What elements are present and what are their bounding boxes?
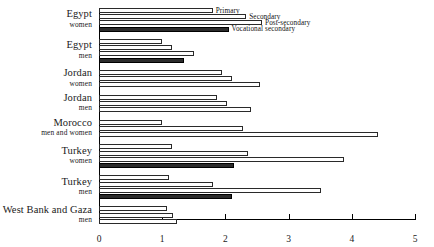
bar [99,144,172,149]
bar [99,163,234,168]
legend-label-vocational-secondary: Vocational secondary [232,25,296,33]
category-country: West Bank and Gaza [0,205,92,216]
bar [99,126,243,131]
bar [99,182,213,187]
category-country: Morocco [0,118,92,129]
category-group: women [0,21,92,29]
x-tick-label-4: 4 [349,234,354,244]
bar [99,8,213,13]
category-label: Turkeywomen [0,146,92,165]
x-tick-4 [352,214,353,220]
category-label: Turkeymen [0,177,92,196]
x-tick-label-1: 1 [160,234,165,244]
bar [99,219,177,224]
bar [99,175,169,180]
bar [99,27,229,32]
x-tick-3 [289,214,290,220]
category-group: men [0,216,92,224]
x-tick-label-3: 3 [286,234,291,244]
bar [99,213,173,218]
bar [99,151,248,156]
category-country: Turkey [0,146,92,157]
x-tick-5 [415,214,416,220]
bar [99,82,260,87]
category-axis-labels: EgyptwomenEgyptmenJordanwomenJordanmenMo… [0,0,96,247]
x-tick-2 [225,214,226,220]
bar [99,70,222,75]
category-group: women [0,157,92,165]
category-label: Jordanwomen [0,68,92,87]
bar [99,101,227,106]
x-tick-label-2: 2 [223,234,228,244]
category-country: Jordan [0,68,92,79]
bar [99,45,172,50]
category-group: men [0,188,92,196]
x-tick-label-5: 5 [413,234,418,244]
bar [99,120,162,125]
legend-label-primary: Primary [216,7,240,15]
horizontal-bar-chart: EgyptwomenEgyptmenJordanwomenJordanmenMo… [0,0,434,247]
category-label: Egyptmen [0,40,92,59]
category-label: Moroccomen and women [0,118,92,137]
category-country: Egypt [0,40,92,51]
x-tick-label-0: 0 [97,234,102,244]
category-label: Jordanmen [0,93,92,112]
plot-area: 012345 [99,8,415,219]
category-country: Turkey [0,177,92,188]
bar [99,107,251,112]
bar [99,76,232,81]
category-label: West Bank and Gazamen [0,205,92,224]
bar [99,157,344,162]
bar [99,51,194,56]
bar [99,132,378,137]
category-group: men [0,52,92,60]
bar [99,14,246,19]
category-group: men and women [0,129,92,137]
category-label: Egyptwomen [0,9,92,28]
category-country: Egypt [0,9,92,20]
category-country: Jordan [0,93,92,104]
bar [99,58,184,63]
bar [99,39,162,44]
category-group: men [0,104,92,112]
bar [99,188,321,193]
bar [99,95,217,100]
category-group: women [0,80,92,88]
bar [99,206,167,211]
bar [99,194,232,199]
